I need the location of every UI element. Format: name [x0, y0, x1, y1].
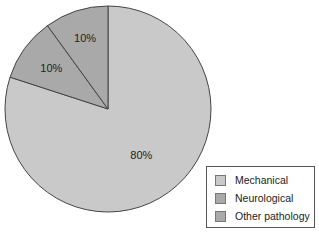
legend-label: Other pathology — [235, 210, 310, 222]
legend-label: Mechanical — [235, 174, 288, 186]
legend-swatch-mechanical — [215, 175, 226, 186]
legend-label: Neurological — [235, 192, 293, 204]
slice-other-pathology-label: 10% — [74, 32, 96, 44]
legend-swatch-neurological — [215, 193, 226, 204]
legend-item-neurological: Neurological — [215, 189, 314, 207]
slice-mechanical-label: 80% — [130, 149, 152, 161]
legend: Mechanical Neurological Other pathology — [206, 166, 315, 228]
slice-neurological-label: 10% — [40, 62, 62, 74]
legend-item-other-pathology: Other pathology — [215, 207, 314, 225]
legend-item-mechanical: Mechanical — [215, 171, 314, 189]
legend-swatch-other-pathology — [215, 211, 226, 222]
